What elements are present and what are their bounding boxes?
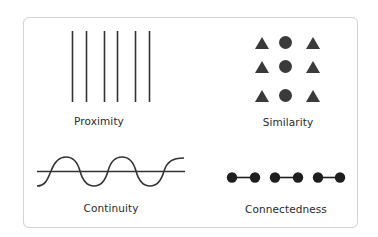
similarity-label: Similarity [263,116,314,128]
proximity-lines-icon [73,31,150,102]
similarity-shapes-icon [255,36,320,102]
connectedness-label: Connectedness [245,203,327,215]
gestalt-illustrations [0,0,378,237]
proximity-label: Proximity [74,115,124,127]
connectedness-dots-icon [227,172,345,182]
continuity-label: Continuity [83,202,138,214]
continuity-wave-icon [37,157,185,186]
